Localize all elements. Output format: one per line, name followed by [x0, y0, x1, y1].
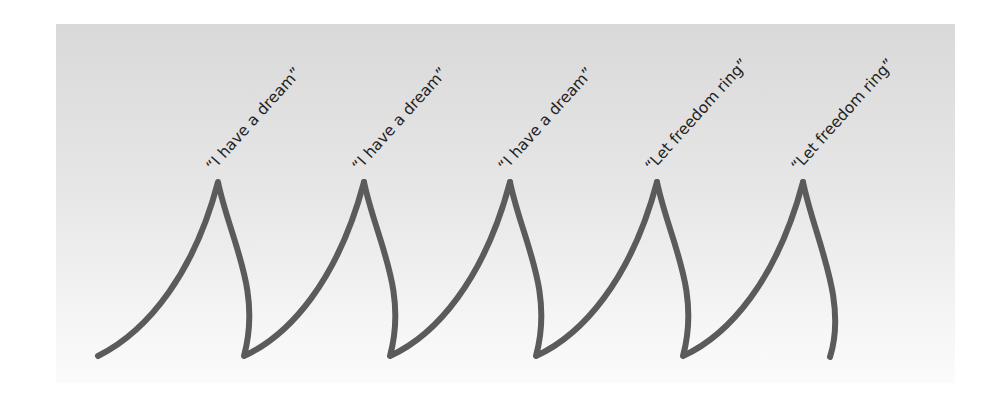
peak-label-3: “I have a dream” [495, 64, 597, 175]
wave-curve-1 [98, 182, 364, 356]
peak-label-2: “I have a dream” [349, 64, 451, 175]
peak-label-5: “Let freedom ring” [788, 55, 898, 175]
wave-curve-3 [510, 182, 657, 356]
wave-curve-2 [364, 182, 510, 356]
peak-label-1: “I have a dream” [203, 64, 305, 175]
peak-label-4: “Let freedom ring” [642, 55, 752, 175]
speech-wave-diagram: “I have a dream” “I have a dream” “I hav… [0, 0, 997, 397]
wave-curve-5 [803, 182, 835, 357]
wave-curve-4 [657, 182, 803, 356]
